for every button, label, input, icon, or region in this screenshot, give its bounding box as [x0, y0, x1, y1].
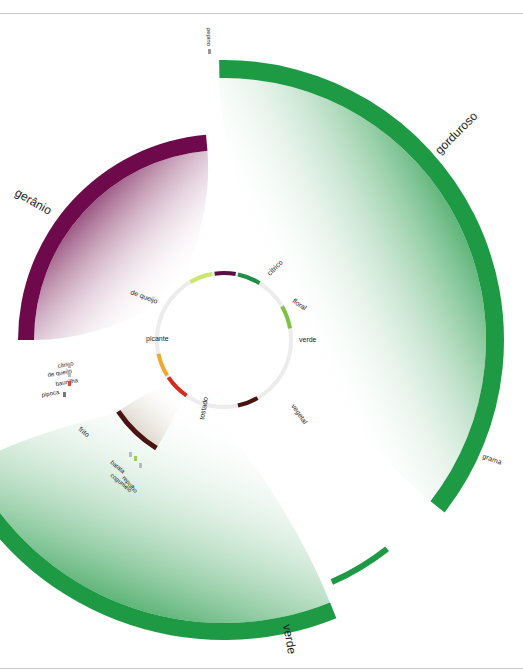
outer-label: gorduroso	[432, 109, 480, 157]
marker-swatch	[68, 372, 71, 377]
inner-ring	[157, 271, 292, 407]
marker-swatch	[63, 392, 66, 397]
inner-segment-floral[interactable]	[214, 271, 236, 276]
outer-label: gerânio	[13, 185, 55, 217]
inner-segment-verde[interactable]	[238, 273, 261, 285]
marker-swatch	[134, 456, 137, 461]
outer-label: grama	[481, 452, 502, 466]
inner-segment-de queijo[interactable]	[157, 354, 169, 377]
marker-swatch	[208, 49, 211, 54]
inner-segment-cítrico[interactable]	[190, 272, 213, 284]
inner-label: vegetal	[289, 403, 309, 426]
marker-label: cítrico	[57, 360, 74, 369]
marker-swatch	[139, 463, 142, 468]
marker-label: baunilha	[55, 377, 79, 387]
marker-label: pepino	[206, 28, 212, 47]
marker-swatch	[68, 381, 71, 386]
marker-label: pipoca	[41, 389, 60, 398]
flow-ribbons	[0, 78, 486, 623]
marker-swatch	[129, 452, 132, 457]
inner-label: verde	[299, 336, 317, 343]
flavor-wheel-diagram: cítricofloralverdevegetaltostadopicanted…	[0, 0, 523, 671]
inner-label: picante	[146, 335, 169, 343]
